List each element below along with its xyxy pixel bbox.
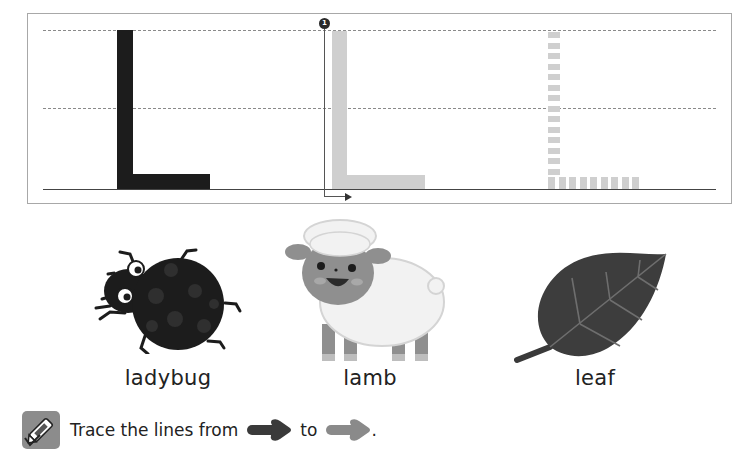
- dash-segment: [601, 177, 608, 189]
- start-marker-icon: 1: [319, 18, 330, 29]
- start-arrow-icon: [246, 418, 292, 442]
- ladybug-icon: [92, 236, 244, 354]
- dash-segment: [548, 106, 560, 112]
- middle-guide-line: [43, 108, 716, 109]
- end-arrow-icon: [325, 418, 371, 442]
- dash-segment: [548, 95, 560, 101]
- dash-segment: [548, 85, 560, 91]
- picture-label-lamb: lamb: [290, 366, 450, 390]
- baseline: [43, 189, 716, 190]
- stroke-guide-horizontal: [324, 196, 346, 197]
- dash-segment: [548, 137, 560, 143]
- instruction-period: .: [371, 420, 376, 440]
- dash-segment: [548, 116, 560, 122]
- dash-segment: [548, 32, 560, 38]
- dash-segment: [548, 127, 560, 133]
- lamb-icon: [278, 218, 448, 366]
- picture-label-leaf: leaf: [515, 366, 675, 390]
- dash-segment: [548, 177, 555, 189]
- crayon-icon: [22, 411, 60, 449]
- dash-segment: [632, 177, 639, 189]
- dash-segment: [569, 177, 576, 189]
- dash-segment: [580, 177, 587, 189]
- letter-foot[interactable]: [332, 175, 425, 189]
- top-guide-line: [43, 30, 716, 31]
- dash-segment: [622, 177, 629, 189]
- dash-segment: [611, 177, 618, 189]
- instruction-text: Trace the lines from: [70, 420, 238, 440]
- dash-segment: [559, 177, 566, 189]
- dash-segment: [548, 169, 560, 175]
- picture-label-ladybug: ladybug: [88, 366, 248, 390]
- dash-segment: [548, 158, 560, 164]
- dash-segment: [548, 64, 560, 70]
- stroke-arrowhead-icon: [345, 193, 352, 201]
- leaf-icon: [514, 250, 672, 366]
- stroke-guide-vertical: [324, 28, 325, 196]
- dash-segment: [548, 148, 560, 154]
- dash-segment: [590, 177, 597, 189]
- dash-segment: [548, 74, 560, 80]
- letter-stem[interactable]: [332, 31, 347, 189]
- letter-foot: [117, 174, 210, 189]
- instruction-to-text: to: [300, 420, 317, 440]
- dash-segment: [548, 53, 560, 59]
- instruction-bar: Trace the lines from to .: [22, 410, 377, 450]
- letter-stem: [117, 30, 133, 189]
- dash-segment: [548, 43, 560, 49]
